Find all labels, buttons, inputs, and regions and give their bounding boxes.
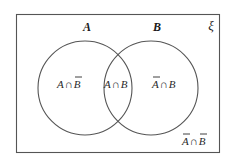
region-a-and-b-part-b: B [121,78,128,90]
svg-text:A∩B: A∩B [103,78,128,90]
svg-text:A∩B: A∩B [181,135,206,147]
svg-text:A∩B: A∩B [151,78,176,90]
region-label-a-and-b: A∩B [103,78,128,90]
intersection-symbol: ∩ [160,78,168,90]
region-neither-part-a: A [181,135,189,147]
region-not-a-b-part-b: B [169,78,176,90]
region-a-and-b-part-a: A [103,78,111,90]
intersection-symbol: ∩ [112,78,120,90]
region-not-a-b-part-a: A [151,78,159,90]
region-neither-part-b: B [199,135,206,147]
universe-label: ξ [208,18,214,33]
svg-text:A∩B: A∩B [56,78,81,90]
region-label-a-not-b: A∩B [56,77,82,90]
intersection-symbol: ∩ [190,135,198,147]
set-b-label: B [152,20,161,34]
set-a-label: A [82,20,91,34]
intersection-symbol: ∩ [65,78,73,90]
venn-diagram: A B ξ A∩B A∩B A∩B A∩B [0,0,232,165]
region-label-not-a-b: A∩B [151,77,176,90]
region-label-neither: A∩B [181,134,207,147]
region-a-not-b-part-b: B [74,78,81,90]
region-a-not-b-part-a: A [56,78,64,90]
